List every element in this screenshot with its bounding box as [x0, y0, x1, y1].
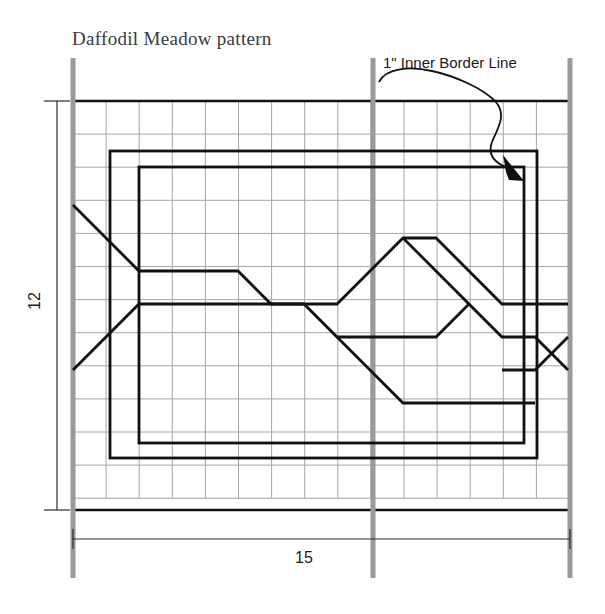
right-tail-path [502, 337, 568, 370]
callout-squiggle-icon [379, 69, 508, 168]
pattern-motifs [73, 205, 568, 403]
callout-leader [379, 69, 508, 168]
pattern-diagram-canvas: Daffodil Meadow pattern 1" Inner Border … [0, 0, 605, 614]
lower-zigzag-path [73, 304, 469, 370]
upper-zigzag-path [73, 205, 568, 304]
field-edges [73, 101, 570, 510]
diagram-svg [0, 0, 605, 614]
